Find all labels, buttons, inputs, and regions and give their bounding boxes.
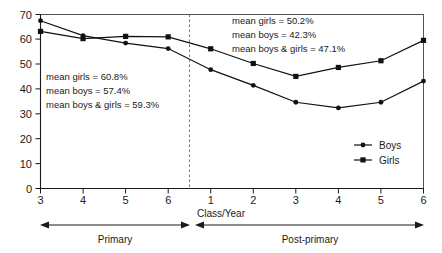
segment-band-label-post-primary: Post-primary [282, 234, 339, 245]
x-axis-ticks [41, 189, 424, 194]
annotation-postprimary-means: mean girls = 50.2% mean boys = 42.3% mea… [232, 15, 346, 54]
data-point-circle [166, 46, 171, 51]
annotation-line: mean boys = 42.3% [232, 29, 317, 40]
y-tick-label: 20 [20, 133, 32, 145]
data-point-square [80, 36, 85, 41]
y-tick-label: 50 [20, 58, 32, 70]
data-point-square [293, 74, 298, 79]
legend-item-boys[interactable]: Boys [354, 140, 401, 151]
data-point-circle [379, 100, 384, 105]
x-tick-label: 5 [123, 194, 129, 206]
data-point-circle [123, 41, 128, 46]
legend-marker-circle-icon [361, 143, 366, 148]
data-point-square [38, 29, 43, 34]
x-tick-label: 3 [37, 194, 43, 206]
annotation-line: mean boys = 57.4% [46, 85, 131, 96]
data-point-square [208, 46, 213, 51]
x-axis-title: Class/Year [197, 208, 246, 219]
data-point-square [378, 58, 383, 63]
line-chart: 0 10 20 30 40 50 60 70 3 4 5 6 1 2 3 4 5… [0, 0, 442, 253]
x-tick-label: 6 [165, 194, 171, 206]
data-point-circle [208, 67, 213, 72]
y-tick-label: 0 [26, 183, 32, 195]
chart-legend: Boys Girls [354, 140, 401, 166]
x-tick-label: 6 [420, 194, 426, 206]
arrow-left-icon [195, 222, 204, 229]
legend-item-girls[interactable]: Girls [354, 155, 400, 166]
y-tick-label: 60 [20, 33, 32, 45]
legend-marker-square-icon [360, 157, 365, 162]
y-tick-label: 40 [20, 83, 32, 95]
x-tick-label: 4 [335, 194, 341, 206]
x-tick-label: 3 [293, 194, 299, 206]
legend-label-girls: Girls [379, 155, 400, 166]
data-point-circle [421, 79, 426, 84]
x-tick-label: 4 [80, 194, 86, 206]
legend-label-boys: Boys [379, 140, 401, 151]
segment-band-primary: Primary [40, 222, 190, 245]
data-point-circle [38, 18, 43, 23]
chart-container: 0 10 20 30 40 50 60 70 3 4 5 6 1 2 3 4 5… [0, 0, 442, 253]
annotation-primary-means: mean girls = 60.8% mean boys = 57.4% mea… [46, 71, 160, 110]
data-point-circle [293, 100, 298, 105]
y-axis-tick-labels: 0 10 20 30 40 50 60 70 [20, 9, 32, 195]
x-tick-label: 2 [250, 194, 256, 206]
segment-band-label-primary: Primary [98, 234, 132, 245]
data-point-square [421, 38, 426, 43]
arrow-right-icon [181, 222, 190, 229]
segment-band-post-primary: Post-primary [195, 222, 424, 245]
x-tick-label: 5 [378, 194, 384, 206]
data-point-circle [251, 83, 256, 88]
y-axis-ticks [36, 15, 41, 189]
arrow-left-icon [40, 222, 49, 229]
data-point-square [123, 34, 128, 39]
x-axis-tick-labels: 3 4 5 6 1 2 3 4 5 6 [37, 194, 426, 206]
data-point-circle [336, 106, 341, 111]
annotation-line: mean boys & girls = 47.1% [232, 43, 346, 54]
annotation-line: mean boys & girls = 59.3% [46, 99, 160, 110]
y-tick-label: 30 [20, 108, 32, 120]
data-point-square [166, 34, 171, 39]
y-tick-label: 10 [20, 158, 32, 170]
data-point-square [251, 61, 256, 66]
x-tick-label: 1 [208, 194, 214, 206]
annotation-line: mean girls = 50.2% [232, 15, 314, 26]
y-tick-label: 70 [20, 9, 32, 21]
data-point-square [336, 65, 341, 70]
arrow-right-icon [415, 222, 424, 229]
annotation-line: mean girls = 60.8% [46, 71, 128, 82]
